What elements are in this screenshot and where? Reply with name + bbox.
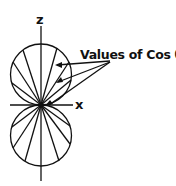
origin-dot: [39, 103, 43, 107]
cos-theta-polar-diagram: [0, 0, 176, 186]
z-axis-label: z: [36, 12, 44, 27]
callout-label: Values of Cos θ: [80, 47, 176, 62]
x-axis-label: x: [75, 97, 83, 112]
